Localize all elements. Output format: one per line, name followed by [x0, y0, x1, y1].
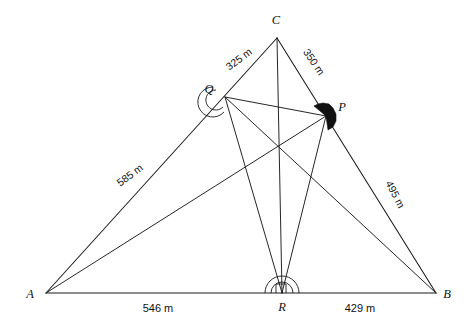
- segment-A-to-P: [46, 116, 326, 293]
- segment-side-BC-via-P: [277, 38, 436, 293]
- diagram-canvas: A B C P Q R 546 m 429 m 585 m 325 m 350 …: [0, 0, 470, 331]
- distance-label-AQ: 585 m: [114, 161, 145, 188]
- vertex-label-A: A: [25, 287, 34, 301]
- segment-side-AC-via-Q: [46, 38, 277, 293]
- distance-label-RB: 429 m: [345, 302, 376, 314]
- segment-Q-to-R: [225, 97, 282, 293]
- distance-label-PB: 495 m: [384, 178, 408, 210]
- vertex-label-R: R: [277, 300, 286, 314]
- distance-label-CP: 350 m: [301, 46, 327, 77]
- segment-P-to-R: [282, 116, 326, 293]
- distance-label-AR: 546 m: [143, 302, 174, 314]
- vertex-label-Q: Q: [204, 82, 213, 96]
- vertex-label-P: P: [337, 100, 346, 114]
- segment-Q-to-P: [225, 97, 326, 116]
- geometry-diagram: A B C P Q R 546 m 429 m 585 m 325 m 350 …: [0, 0, 470, 331]
- vertex-label-C: C: [272, 13, 281, 27]
- segment-cevian-C-to-R: [277, 38, 282, 293]
- vertex-label-B: B: [443, 287, 451, 301]
